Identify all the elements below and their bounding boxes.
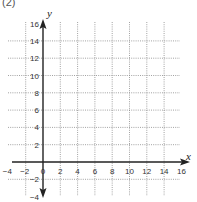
x-tick-label: 14 [160,167,169,176]
y-tick-label: 16 [30,20,39,29]
x-tick-label: −4 [3,167,13,176]
y-tick-label: 10 [30,72,39,81]
y-axis-label: y [46,7,52,19]
x-tick-label: 12 [142,167,151,176]
figure-label: (2) [2,0,15,8]
coordinate-grid: (2) −4−20246810121416−4−2246810121416 x … [0,0,197,202]
y-tick-label: 2 [35,141,40,150]
x-tick-label: 2 [58,167,63,176]
x-tick-label: 8 [110,167,115,176]
y-tick-label: −2 [30,175,40,184]
y-tick-label: 8 [35,89,40,98]
x-axis-label: x [185,150,191,162]
x-tick-label: 16 [177,167,186,176]
x-tick-label: 10 [125,167,134,176]
y-tick-label: 4 [35,123,40,132]
x-tick-label: 0 [41,167,46,176]
x-tick-label: −2 [20,167,30,176]
y-tick-label: 6 [35,106,40,115]
y-tick-label: 12 [30,54,39,63]
y-tick-label: 14 [30,37,39,46]
x-tick-label: 4 [75,167,80,176]
y-tick-label: −4 [30,193,40,202]
x-tick-label: 6 [93,167,98,176]
